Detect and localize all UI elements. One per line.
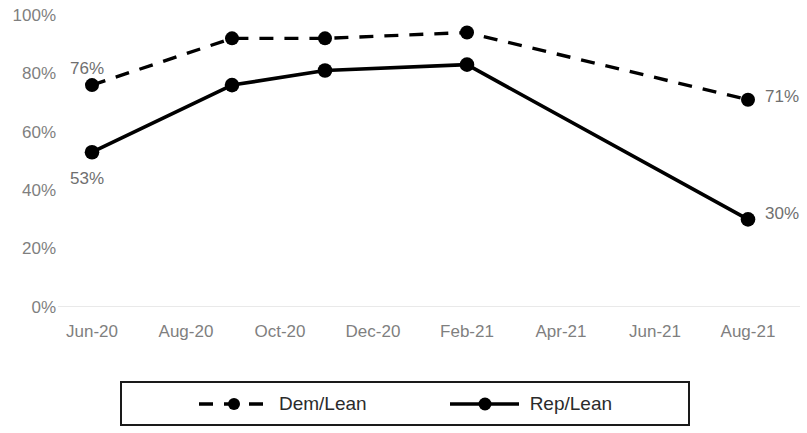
- data-point: [318, 63, 333, 78]
- data-point: [225, 78, 240, 93]
- legend-item-rep-lean[interactable]: Rep/Lean: [449, 394, 612, 413]
- legend-swatch-dashed-icon: [198, 396, 272, 412]
- legend-item-dem-lean[interactable]: Dem/Lean: [198, 394, 367, 413]
- x-axis-tick-aug-21: Aug-21: [701, 323, 795, 340]
- y-axis-tick-20: 20%: [0, 240, 56, 257]
- y-axis-tick-40: 40%: [0, 182, 56, 199]
- x-axis-tick-oct-20: Oct-20: [233, 323, 327, 340]
- data-point: [460, 57, 475, 72]
- x-axis-tick-apr-21: Apr-21: [514, 323, 608, 340]
- data-point: [85, 78, 99, 92]
- y-axis-tick-100: 100%: [0, 7, 56, 24]
- legend-label-rep-lean: Rep/Lean: [530, 394, 612, 413]
- chart-legend: Dem/Lean Rep/Lean: [120, 381, 690, 426]
- series-line-rep-lean: [92, 65, 748, 220]
- x-axis-tick-feb-21: Feb-21: [420, 323, 514, 340]
- data-point: [85, 145, 100, 160]
- legend-label-dem-lean: Dem/Lean: [279, 394, 367, 413]
- data-point: [460, 26, 474, 40]
- data-point: [318, 31, 332, 45]
- x-axis-tick-dec-20: Dec-20: [326, 323, 420, 340]
- line-chart: 100% 80% 60% 40% 20% 0% Jun-20 Aug-20 Oc…: [0, 0, 807, 433]
- data-point: [741, 93, 755, 107]
- data-point: [741, 212, 756, 227]
- legend-swatch-solid-icon: [449, 396, 523, 412]
- data-label-rep-last: 30%: [765, 205, 799, 222]
- x-axis-tick-jun-20: Jun-20: [45, 323, 139, 340]
- y-axis-tick-60: 60%: [0, 124, 56, 141]
- series-markers-rep-lean: [85, 57, 756, 226]
- y-axis-tick-0: 0%: [0, 299, 56, 316]
- data-label-dem-first: 76%: [70, 60, 104, 77]
- y-axis-tick-80: 80%: [0, 65, 56, 82]
- x-axis-tick-jun-21: Jun-21: [608, 323, 702, 340]
- data-point: [225, 31, 239, 45]
- data-label-dem-last: 71%: [765, 88, 799, 105]
- chart-plot-area: [0, 0, 807, 433]
- data-label-rep-first: 53%: [70, 170, 104, 187]
- x-axis-tick-aug-20: Aug-20: [139, 323, 233, 340]
